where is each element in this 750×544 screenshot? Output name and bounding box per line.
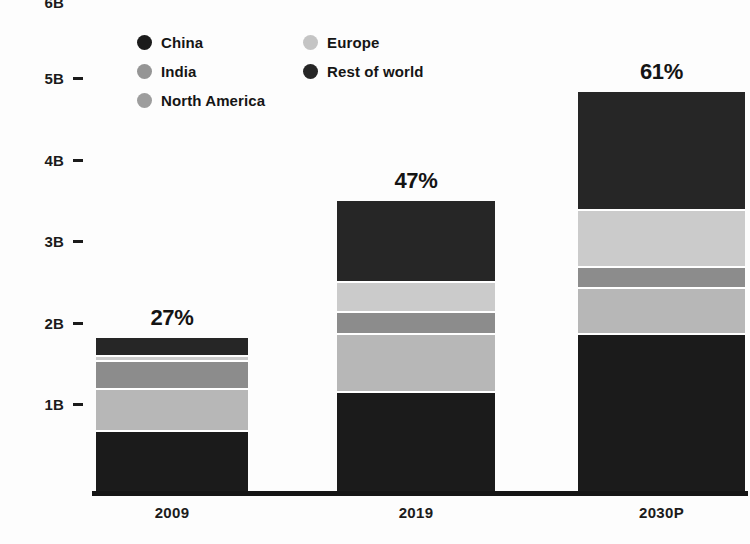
circle-marker-icon [137,93,152,108]
y-axis-tick-label: 1B [44,397,64,412]
legend-item-label: Rest of world [327,64,423,79]
tick-dash-icon [73,159,83,162]
bar-segment-north-america[interactable] [96,362,248,390]
tick-dash-icon [73,322,83,325]
x-axis-label-2009: 2009 [96,504,248,521]
y-axis-tick-label: 5B [44,71,64,86]
bar-segment-china[interactable] [337,393,495,491]
legend-column-right: Europe Rest of world [303,32,423,110]
legend-item-label: North America [161,93,265,108]
y-axis-tick-label: 2B [44,316,64,331]
bar-2030p[interactable] [578,92,745,491]
y-axis-tick-6b: 6B [0,0,92,12]
bar-segment-north-america[interactable] [578,268,745,289]
bar-value-label-2019: 47% [337,168,495,194]
bar-value-label-2009: 27% [96,305,248,331]
y-axis-tick-label: 4B [44,153,64,168]
legend-item-north-america[interactable]: North America [137,90,265,110]
y-axis-tick-5b: 5B [0,68,92,88]
x-axis-label-2030p: 2030P [578,504,745,521]
legend-item-label: Europe [327,35,379,50]
bar-segment-rest-of-world[interactable] [96,338,248,358]
legend-item-india[interactable]: India [137,61,265,81]
bar-segment-india[interactable] [578,289,745,335]
circle-marker-icon [303,35,318,50]
bar-2009[interactable] [96,338,248,491]
bar-segment-europe[interactable] [578,211,745,267]
bar-segment-rest-of-world[interactable] [578,92,745,212]
stacked-bar-chart: 6B 5B 4B 3B 2B 1B China India [0,0,750,544]
tick-dash-icon [73,77,83,80]
y-axis-tick-3b: 3B [0,231,92,251]
bar-2019[interactable] [337,201,495,491]
bar-segment-china[interactable] [96,432,248,491]
tick-dash-icon [73,403,83,406]
y-axis-tick-label: 3B [44,234,64,249]
legend-item-europe[interactable]: Europe [303,32,423,52]
y-axis-tick-label: 6B [44,0,64,10]
tick-dash-icon [73,240,83,243]
legend-item-label: India [161,64,197,79]
bar-segment-india[interactable] [337,335,495,394]
legend-item-china[interactable]: China [137,32,265,52]
circle-marker-icon [303,64,318,79]
y-axis-tick-2b: 2B [0,313,92,333]
x-axis-baseline [92,491,748,496]
y-axis-tick-1b: 1B [0,394,92,414]
bar-value-label-2030p: 61% [578,59,745,85]
y-axis-tick-4b: 4B [0,150,92,170]
circle-marker-icon [137,35,152,50]
chart-legend: China India North America Europe Rest of… [137,32,423,110]
bar-segment-north-america[interactable] [337,313,495,335]
bar-segment-india[interactable] [96,390,248,432]
legend-column-left: China India North America [137,32,265,110]
bar-segment-europe[interactable] [337,283,495,312]
bar-segment-rest-of-world[interactable] [337,201,495,283]
bar-segment-china[interactable] [578,335,745,491]
legend-item-rest-of-world[interactable]: Rest of world [303,61,423,81]
x-axis-label-2019: 2019 [337,504,495,521]
circle-marker-icon [137,64,152,79]
legend-item-label: China [161,35,203,50]
